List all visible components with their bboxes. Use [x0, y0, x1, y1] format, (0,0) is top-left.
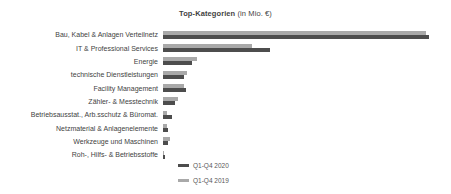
bar-rows: Bau, Kabel & Anlagen VerteilnetzIT & Pro…: [0, 28, 451, 161]
category-row: IT & Professional Services: [0, 41, 451, 54]
category-row: Netzmaterial & Anlagenelemente: [0, 121, 451, 134]
bar-group: [163, 44, 270, 52]
bar-q1-q4-2020: [163, 115, 172, 119]
category-label: technische Dienstleistungen: [0, 71, 163, 78]
legend-label-2020: Q1-Q4 2020: [193, 162, 229, 169]
chart-title: Top-Kategorien (in Mio. €): [0, 9, 451, 19]
category-label: Roh-, Hilfs- & Betriebsstoffe: [0, 151, 163, 158]
bar-q1-q4-2020: [163, 48, 270, 52]
category-label: Betriebsausstat., Arb.sschutz & Büromat.: [0, 111, 163, 118]
legend-swatch-2019: [178, 179, 189, 182]
bar-q1-q4-2020: [163, 88, 186, 92]
top-categories-bar-chart: Top-Kategorien (in Mio. €) Bau, Kabel & …: [0, 0, 451, 194]
category-label: Bau, Kabel & Anlagen Verteilnetz: [0, 31, 163, 38]
bar-q1-q4-2020: [163, 61, 192, 65]
bar-q1-q4-2020: [163, 155, 165, 159]
category-row: Zähler- & Messtechnik: [0, 95, 451, 108]
category-label: Facility Management: [0, 85, 163, 92]
bar-group: [163, 111, 172, 119]
bar-group: [163, 97, 178, 105]
chart-title-main: Top-Kategorien: [179, 9, 235, 18]
legend: Q1-Q4 2020 Q1-Q4 2019: [178, 158, 229, 188]
bar-q1-q4-2020: [163, 141, 168, 145]
category-row: Werkzeuge und Maschinen: [0, 135, 451, 148]
category-label: Werkzeuge und Maschinen: [0, 138, 163, 145]
category-label: Netzmaterial & Anlagenelemente: [0, 125, 163, 132]
chart-title-unit: (in Mio. €): [235, 9, 272, 18]
category-row: Betriebsausstat., Arb.sschutz & Büromat.: [0, 108, 451, 121]
category-label: Energie: [0, 58, 163, 65]
legend-item-2020: Q1-Q4 2020: [178, 158, 229, 173]
category-row: Energie: [0, 55, 451, 68]
category-row: Bau, Kabel & Anlagen Verteilnetz: [0, 28, 451, 41]
category-label: IT & Professional Services: [0, 45, 163, 52]
bar-group: [163, 31, 429, 39]
legend-item-2019: Q1-Q4 2019: [178, 173, 229, 188]
category-label: Zähler- & Messtechnik: [0, 98, 163, 105]
bar-q1-q4-2020: [163, 75, 184, 79]
bar-q1-q4-2020: [163, 35, 429, 39]
bar-q1-q4-2020: [163, 128, 168, 132]
legend-swatch-2020: [178, 164, 189, 167]
bar-group: [163, 71, 187, 79]
bar-group: [163, 137, 170, 145]
bar-group: [163, 124, 168, 132]
legend-label-2019: Q1-Q4 2019: [193, 177, 229, 184]
bar-group: [163, 57, 197, 65]
category-row: Facility Management: [0, 81, 451, 94]
bar-group: [163, 84, 186, 92]
bar-group: [163, 151, 165, 159]
category-row: technische Dienstleistungen: [0, 68, 451, 81]
bar-q1-q4-2020: [163, 101, 175, 105]
